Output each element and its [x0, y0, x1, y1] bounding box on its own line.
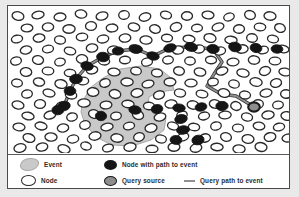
hollow-node-icon	[21, 175, 36, 186]
legend-item-node: Node	[21, 172, 58, 189]
legend-row-2: Node Query source Query path to event	[8, 172, 289, 189]
legend: Event Node with path to event Node Query…	[8, 154, 289, 188]
legend-label-event: Event	[44, 161, 62, 169]
network-diagram-svg	[8, 6, 289, 153]
node-markers	[10, 9, 289, 153]
query-source-marker	[248, 102, 260, 111]
legend-label-query-source: Query source	[122, 177, 165, 185]
figure-container: Event Node with path to event Node Query…	[0, 0, 299, 197]
event-blob-icon	[19, 158, 39, 171]
query-source-icon	[104, 176, 117, 186]
query-path-line-icon	[184, 180, 195, 182]
legend-row-1: Event Node with path to event	[8, 156, 289, 173]
legend-item-event: Event	[20, 156, 62, 173]
legend-item-query-source: Query source	[104, 172, 165, 189]
legend-item-query-path: Query path to event	[184, 172, 263, 189]
legend-label-node: Node	[41, 177, 58, 185]
network-diagram-plot	[8, 6, 289, 153]
legend-label-query-path: Query path to event	[200, 177, 263, 185]
legend-label-path-node: Node with path to event	[122, 161, 198, 169]
legend-item-path-node: Node with path to event	[104, 156, 198, 173]
filled-node-icon	[104, 160, 117, 170]
